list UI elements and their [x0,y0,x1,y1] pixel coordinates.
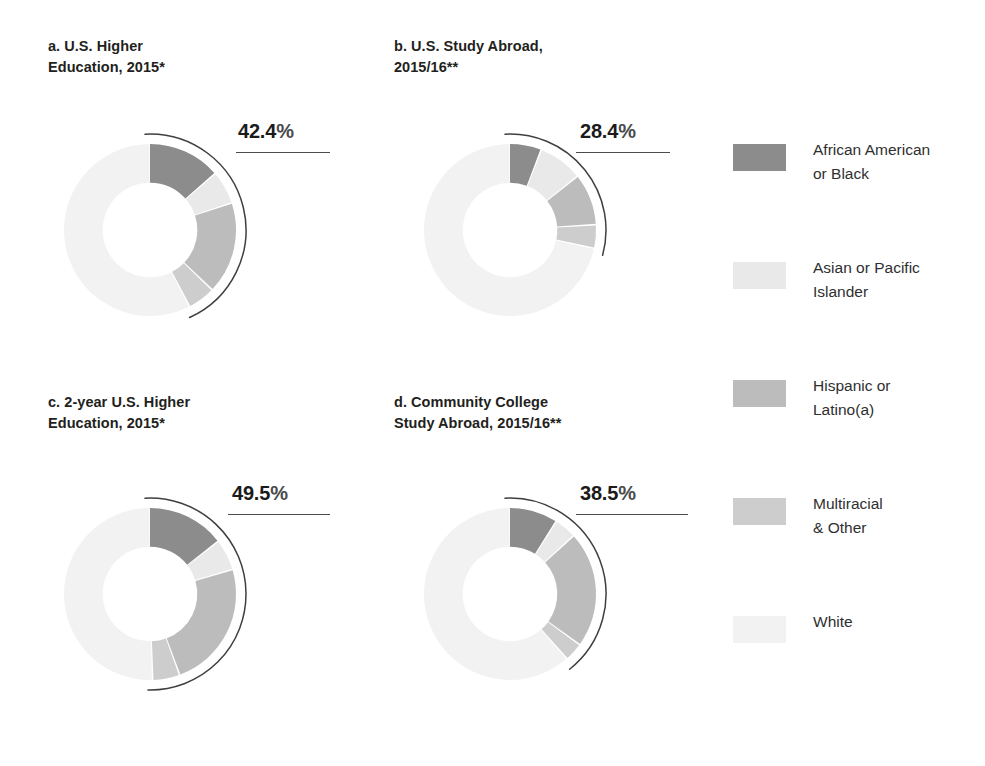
panel-d: d. Community College Study Abroad, 2015/… [358,364,738,764]
panel-c-percent-value: 49.5 [232,482,270,504]
legend-swatch-multiracial [733,498,786,525]
panel-a-title: a. U.S. Higher Education, 2015* [48,36,165,78]
panel-c-percent-rule [228,514,330,515]
legend-swatch-white [733,616,786,643]
legend-swatch-african-american [733,144,786,171]
legend-swatch-hispanic [733,380,786,407]
legend-label-asian: Asian or Pacific Islander [813,256,920,304]
panel-d-percent-label: 38.5% [580,482,636,505]
panel-c-percent-sign: % [270,482,288,504]
panel-c-title: c. 2-year U.S. Higher Education, 2015* [48,392,190,434]
panel-d-title: d. Community College Study Abroad, 2015/… [394,392,561,434]
legend-item-asian: Asian or Pacific Islander [733,258,973,376]
panel-d-percent-value: 38.5 [580,482,618,504]
donut-chart-d [378,469,678,719]
legend-item-multiracial: Multiracial & Other [733,494,973,612]
panel-d-percent-rule [576,514,688,515]
legend-label-white: White [813,610,853,634]
donut-slice [64,508,152,680]
panel-b-percent-sign: % [618,120,636,142]
panel-b: b. U.S. Study Abroad, 2015/16** 28.4% [358,0,738,380]
legend-item-white: White [733,612,973,730]
legend-item-hispanic: Hispanic or Latino(a) [733,376,973,494]
panel-a: a. U.S. Higher Education, 2015* 42.4% [0,0,380,380]
legend-label-multiracial: Multiracial & Other [813,492,883,540]
legend-label-hispanic: Hispanic or Latino(a) [813,374,891,422]
panel-c: c. 2-year U.S. Higher Education, 2015* 4… [0,364,380,764]
panel-a-percent-rule [236,152,330,153]
panel-b-percent-rule [576,152,670,153]
donut-chart-c [18,469,318,719]
legend-item-african-american: African American or Black [733,140,973,258]
panel-a-percent-value: 42.4 [238,120,276,142]
donut-d-svg [378,469,678,719]
panel-a-percent-sign: % [276,120,294,142]
panel-d-percent-sign: % [618,482,636,504]
donut-c-svg [18,469,318,719]
panel-b-title: b. U.S. Study Abroad, 2015/16** [394,36,543,78]
panel-b-percent-value: 28.4 [580,120,618,142]
legend-label-african-american: African American or Black [813,138,930,186]
panel-a-percent-label: 42.4% [238,120,294,143]
chart-legend: African American or Black Asian or Pacif… [733,140,973,730]
panel-b-percent-label: 28.4% [580,120,636,143]
panel-c-percent-label: 49.5% [232,482,288,505]
donut-slice [167,570,236,674]
legend-swatch-asian [733,262,786,289]
